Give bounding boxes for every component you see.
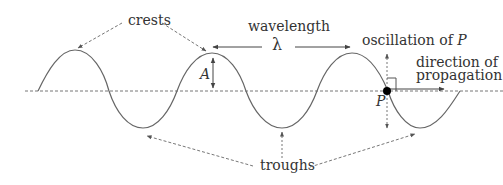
oscillation-label: oscillation of P (362, 32, 467, 48)
lambda-symbol: λ (272, 35, 282, 54)
trough-arrow-1 (147, 136, 253, 166)
trough-arrow-3 (310, 134, 415, 167)
wavelength-label: wavelength (248, 18, 330, 34)
amplitude-label: A (198, 66, 210, 82)
troughs-label: troughs (260, 157, 315, 173)
direction-label-line2: propagation (416, 67, 502, 83)
point-p-label: P (375, 93, 386, 109)
crests-label: crests (128, 12, 171, 28)
crest-arrow-1 (78, 23, 122, 48)
wave-diagram: crests wavelength λ A oscillation of P d… (0, 0, 503, 185)
crest-arrow-2 (162, 23, 206, 51)
